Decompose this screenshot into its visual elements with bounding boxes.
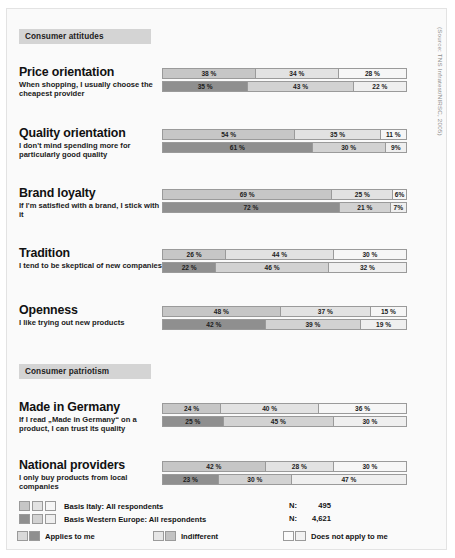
swatch-weurope-notapply-icon [45, 514, 56, 524]
bar-segment: 30 % [333, 461, 407, 472]
bar-segment: 30 % [312, 142, 386, 153]
bar-segment: 40 % [220, 403, 319, 414]
bar-segment: 46 % [215, 262, 329, 273]
group-label: Brand loyaltyIf I'm satisfied with a bra… [19, 187, 164, 220]
legend-basis-italy: Basis Italy: All respondents [19, 501, 163, 511]
legend-n-label: N: [289, 514, 301, 523]
group-title: National providers [19, 459, 164, 472]
legend-key-applies: Applies to me [17, 531, 95, 541]
legend-key-indifferent: Indifferent [153, 531, 218, 541]
swatch-applies-light-icon [17, 531, 28, 541]
stacked-bar-weurope: 61 %30 %9% [162, 142, 409, 153]
group-bars: 48 %37 %15 %42 %39 %19 % [162, 306, 409, 332]
legend-n-italy-value: 495 [301, 501, 331, 510]
bar-segment: 42 % [162, 319, 266, 330]
legend-n-italy: N: 495 [289, 501, 331, 510]
swatch-notapply-light-icon [283, 531, 294, 541]
legend-n-label: N: [289, 501, 301, 510]
source-note: (Source: TNS Infratest/NIRSC, 2005) [437, 27, 444, 136]
swatch-italy-notapply-icon [45, 501, 56, 511]
group-bars: 42 %28 %30 %23 %30 %47 % [162, 461, 409, 487]
group-label: Price orientationWhen shopping, I usuall… [19, 66, 164, 99]
figure-root: (Source: TNS Infratest/NIRSC, 2005) Cons… [6, 8, 447, 550]
section-header-consumer-attitudes: Consumer attitudes [19, 29, 151, 44]
swatch-indifferent-light-icon [153, 531, 164, 541]
legend-n-weurope-value: 4,621 [301, 514, 331, 523]
stacked-bar-weurope: 25 %45 %30 % [162, 416, 409, 427]
stacked-bar-weurope: 42 %39 %19 % [162, 319, 409, 330]
group-title: Openness [19, 304, 164, 317]
bar-segment: 69 % [162, 189, 332, 200]
bar-segment: 32 % [328, 262, 407, 273]
bar-segment: 35 % [294, 129, 380, 140]
bar-segment: 15 % [370, 306, 407, 317]
group-bars: 38 %34 %28 %35 %43 %22 % [162, 68, 409, 94]
swatch-weurope-applies-icon [19, 514, 30, 524]
bar-segment: 34 % [255, 68, 339, 79]
bar-segment: 36 % [318, 403, 407, 414]
legend-key-indifferent-label: Indifferent [181, 532, 218, 541]
bar-segment: 22 % [162, 262, 216, 273]
group-label: National providersI only buy products fr… [19, 459, 164, 492]
group-label: Quality orientationI don't mind spending… [19, 127, 164, 160]
group-description: If I'm satisfied with a brand, I stick w… [19, 201, 164, 220]
bar-segment: 6% [392, 189, 407, 200]
bar-segment: 25 % [162, 416, 224, 427]
group-title: Made in Germany [19, 401, 164, 414]
stacked-bar-italy: 24 %40 %36 % [162, 403, 409, 414]
group-label: OpennessI like trying out new products [19, 304, 164, 327]
legend-basis-italy-label: Basis Italy: All respondents [64, 502, 163, 511]
group-bars: 24 %40 %36 %25 %45 %30 % [162, 403, 409, 429]
bar-segment: 30 % [218, 474, 292, 485]
swatch-italy-applies-icon [19, 501, 30, 511]
bar-segment: 9% [385, 142, 407, 153]
bar-segment: 37 % [280, 306, 371, 317]
stacked-bar-weurope: 35 %43 %22 % [162, 81, 409, 92]
section-header-label: Consumer attitudes [25, 32, 104, 41]
legend-key-notapply: Does not apply to me [283, 531, 388, 541]
bar-segment: 28 % [265, 461, 334, 472]
bar-segment: 30 % [333, 249, 407, 260]
group-title: Price orientation [19, 66, 164, 79]
bar-segment: 25 % [331, 189, 393, 200]
group-title: Brand loyalty [19, 187, 164, 200]
legend-n-weurope: N: 4,621 [289, 514, 331, 523]
bar-segment: 72 % [162, 202, 340, 213]
swatch-notapply-dark-icon [295, 531, 306, 541]
section-header-consumer-patriotism: Consumer patriotism [19, 364, 151, 379]
legend-basis-weurope-label: Basis Western Europe: All respondents [64, 515, 206, 524]
bar-segment: 24 % [162, 403, 221, 414]
stacked-bar-italy: 69 %25 %6% [162, 189, 409, 200]
group-description: I like trying out new products [19, 318, 164, 327]
group-description: I tend to be skeptical of new companies [19, 261, 164, 270]
bar-segment: 39 % [265, 319, 361, 330]
bar-segment: 61 % [162, 142, 313, 153]
bar-segment: 7% [390, 202, 407, 213]
stacked-bar-italy: 48 %37 %15 % [162, 306, 409, 317]
bar-segment: 48 % [162, 306, 281, 317]
stacked-bar-italy: 38 %34 %28 % [162, 68, 409, 79]
section-header-label: Consumer patriotism [25, 367, 109, 376]
group-label: Made in GermanyIf I read „Made in German… [19, 401, 164, 434]
bar-segment: 11 % [380, 129, 407, 140]
bar-segment: 54 % [162, 129, 295, 140]
bar-segment: 28 % [338, 68, 407, 79]
swatch-italy-indifferent-icon [32, 501, 43, 511]
group-bars: 69 %25 %6%72 %21 %7% [162, 189, 409, 215]
bar-segment: 22 % [353, 81, 407, 92]
group-label: TraditionI tend to be skeptical of new c… [19, 247, 164, 270]
swatch-applies-dark-icon [29, 531, 40, 541]
swatch-indifferent-dark-icon [165, 531, 176, 541]
swatch-weurope-indifferent-icon [32, 514, 43, 524]
stacked-bar-italy: 54 %35 %11 % [162, 129, 409, 140]
stacked-bar-weurope: 72 %21 %7% [162, 202, 409, 213]
stacked-bar-weurope: 22 %46 %32 % [162, 262, 409, 273]
bar-segment: 47 % [291, 474, 407, 485]
bar-segment: 43 % [247, 81, 353, 92]
stacked-bar-italy: 26 %44 %30 % [162, 249, 409, 260]
bar-segment: 26 % [162, 249, 226, 260]
stacked-bar-italy: 42 %28 %30 % [162, 461, 409, 472]
bar-segment: 44 % [225, 249, 334, 260]
stacked-bar-weurope: 23 %30 %47 % [162, 474, 409, 485]
group-title: Tradition [19, 247, 164, 260]
